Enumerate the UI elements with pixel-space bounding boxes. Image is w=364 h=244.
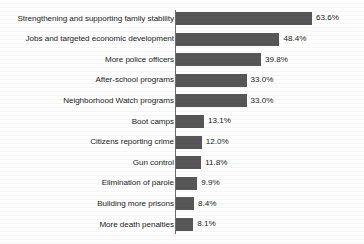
plot-area: Strengthening and supporting family stab… <box>0 0 364 244</box>
value-label: 33.0% <box>251 76 274 84</box>
bar-row: More police officers39.8% <box>0 53 364 66</box>
value-label: 11.8% <box>205 159 227 167</box>
bar-and-value: 33.0% <box>176 74 274 87</box>
category-label: Elimination of parole <box>102 179 174 187</box>
value-label: 8.4% <box>198 200 216 208</box>
value-label: 48.4% <box>283 35 306 43</box>
category-label: Citizens reporting crime <box>90 138 174 146</box>
bar-and-value: 8.4% <box>176 197 216 210</box>
bar <box>176 177 197 190</box>
horizontal-bar-chart: Strengthening and supporting family stab… <box>0 0 364 244</box>
bar-row: Building more prisons8.4% <box>0 197 364 210</box>
value-label: 9.9% <box>201 179 219 187</box>
value-label: 8.1% <box>197 220 215 228</box>
value-label: 33.0% <box>251 97 274 105</box>
bar <box>176 74 247 87</box>
bar <box>176 156 201 169</box>
value-label: 63.6% <box>316 14 339 22</box>
bar-row: Gun control11.8% <box>0 156 364 169</box>
bar-and-value: 33.0% <box>176 94 274 107</box>
value-label: 12.0% <box>206 138 229 146</box>
bar-row: Neighborhood Watch programs33.0% <box>0 94 364 107</box>
category-label: Jobs and targeted economic development <box>26 35 174 43</box>
category-label: More police officers <box>105 56 174 64</box>
bar <box>176 12 312 25</box>
value-label: 13.1% <box>208 117 231 125</box>
bar-and-value: 9.9% <box>176 177 220 190</box>
bar-row: Jobs and targeted economic development48… <box>0 33 364 46</box>
bar <box>176 115 204 128</box>
bar <box>176 53 261 66</box>
bar-row: More death penalties8.1% <box>0 218 364 231</box>
category-label: Building more prisons <box>97 200 174 208</box>
bar-row: After-school programs33.0% <box>0 74 364 87</box>
category-label: Neighborhood Watch programs <box>63 97 174 105</box>
category-label: After-school programs <box>95 76 174 84</box>
bar-and-value: 11.8% <box>176 156 228 169</box>
bar-and-value: 48.4% <box>176 33 306 46</box>
bar-and-value: 39.8% <box>176 53 288 66</box>
bar <box>176 136 202 149</box>
bar <box>176 197 194 210</box>
bar-row: Citizens reporting crime12.0% <box>0 136 364 149</box>
bar-row: Elimination of parole9.9% <box>0 177 364 190</box>
category-label: More death penalties <box>99 220 174 228</box>
category-label: Gun control <box>133 159 174 167</box>
bar <box>176 33 279 46</box>
value-label: 39.8% <box>265 56 288 64</box>
category-label: Boot camps <box>132 117 174 125</box>
bar-row: Strengthening and supporting family stab… <box>0 12 364 25</box>
category-label: Strengthening and supporting family stab… <box>17 14 174 22</box>
bar-and-value: 12.0% <box>176 136 229 149</box>
bar-and-value: 63.6% <box>176 12 339 25</box>
bar-and-value: 13.1% <box>176 115 231 128</box>
bar <box>176 94 247 107</box>
bar-row: Boot camps13.1% <box>0 115 364 128</box>
bar-and-value: 8.1% <box>176 218 216 231</box>
bar <box>176 218 193 231</box>
